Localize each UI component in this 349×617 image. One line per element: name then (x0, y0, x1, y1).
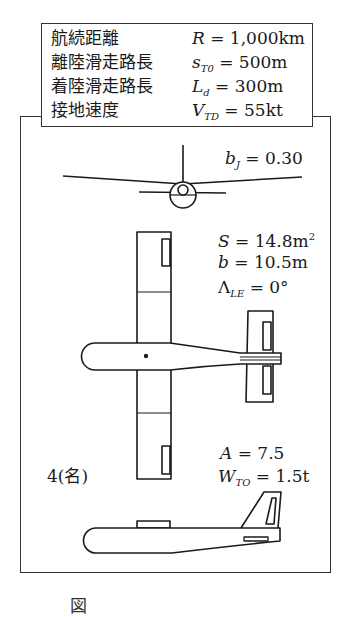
takeoff-weight-annotation: WTO = 1.5t (218, 465, 309, 494)
dihedral-annotation: bJ = 0.30 (225, 147, 303, 176)
wing-area-annotation: S = 14.8m2 (218, 226, 315, 252)
aspect-ratio-annotation: A = 7.5 (220, 442, 284, 464)
side-view (84, 492, 282, 553)
wing-side (137, 521, 170, 528)
canopy-section (178, 185, 188, 195)
design-requirements-box: 航続距離 R = 1,000km 離陸滑走路長 sT0 = 500m 着陸滑走路… (41, 23, 313, 127)
figure-caption: 図 (70, 592, 97, 617)
span-annotation: b = 10.5m (218, 251, 308, 273)
cg-mark (144, 354, 148, 358)
sweep-annotation: ΛLE = 0° (218, 276, 289, 305)
seats-annotation: 4(名) (47, 465, 88, 487)
